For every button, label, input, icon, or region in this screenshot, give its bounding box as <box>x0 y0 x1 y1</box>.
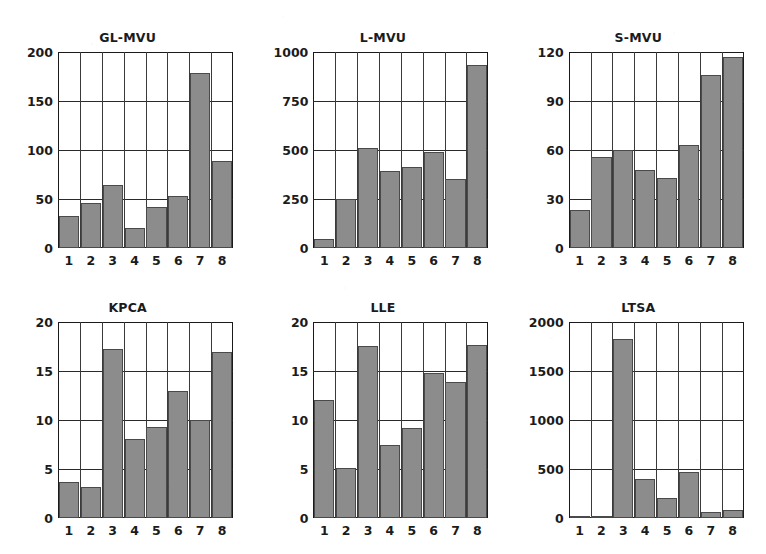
bar <box>103 185 123 248</box>
bar <box>402 428 422 518</box>
plot-area: 05010015020012345678 <box>58 52 233 248</box>
bar-series <box>58 52 233 248</box>
x-axis-tick-label: 8 <box>467 523 487 538</box>
bar <box>380 445 400 519</box>
bar <box>146 427 166 518</box>
bar <box>103 349 123 518</box>
bar <box>146 207 166 248</box>
bar <box>125 228 145 248</box>
y-axis-tick-label: 0 <box>555 241 569 256</box>
bar <box>467 65 487 248</box>
bar-series <box>313 52 488 248</box>
bar-series <box>569 52 744 248</box>
y-axis-tick-label: 500 <box>282 143 313 158</box>
x-axis-tick-label: 3 <box>103 523 123 538</box>
x-axis-tick-labels: 12345678 <box>58 248 233 268</box>
bar <box>424 152 444 248</box>
y-axis-tick-label: 10 <box>291 413 313 428</box>
bar <box>657 498 677 518</box>
x-axis-tick-label: 4 <box>635 523 655 538</box>
x-axis-tick-label: 7 <box>701 523 721 538</box>
x-axis-tick-label: 8 <box>723 523 743 538</box>
y-axis-tick-label: 1000 <box>529 413 569 428</box>
chart-panel-lle: LLE0510152012345678 <box>255 288 510 554</box>
y-axis-tick-label: 0 <box>555 511 569 526</box>
y-axis-tick-label: 60 <box>546 143 568 158</box>
x-axis-tick-label: 8 <box>723 253 743 268</box>
chart-title: S-MVU <box>511 30 766 45</box>
bar <box>701 75 721 248</box>
bar <box>81 203 101 248</box>
x-axis-tick-label: 2 <box>336 523 356 538</box>
bar <box>59 216 79 248</box>
chart-title: LLE <box>255 300 510 315</box>
bar-series <box>313 322 488 518</box>
chart-title: LTSA <box>511 300 766 315</box>
x-axis-tick-label: 1 <box>59 523 79 538</box>
y-axis-tick-label: 150 <box>27 94 58 109</box>
bar <box>657 178 677 248</box>
x-axis-tick-label: 3 <box>613 253 633 268</box>
y-axis-tick-label: 30 <box>546 192 568 207</box>
chart-panel-ltsa: LTSA050010001500200012345678 <box>511 288 766 554</box>
bar <box>445 179 465 248</box>
x-axis-tick-label: 5 <box>146 253 166 268</box>
x-axis-tick-label: 1 <box>59 253 79 268</box>
plot-area: 0250500750100012345678 <box>313 52 488 248</box>
x-axis-tick-label: 6 <box>424 523 444 538</box>
x-axis-tick-label: 4 <box>125 253 145 268</box>
x-axis-tick-labels: 12345678 <box>569 518 744 538</box>
x-axis-tick-label: 1 <box>570 523 590 538</box>
y-axis-tick-label: 15 <box>291 364 313 379</box>
bar <box>445 382 465 518</box>
bar <box>212 161 232 248</box>
plot-area: 050010001500200012345678 <box>569 322 744 518</box>
bar <box>168 391 188 518</box>
y-axis-tick-label: 0 <box>44 511 58 526</box>
x-axis-tick-label: 6 <box>679 523 699 538</box>
x-axis-tick-label: 2 <box>81 523 101 538</box>
x-axis-tick-label: 4 <box>380 523 400 538</box>
bar <box>336 199 356 248</box>
bar-chart-figure: GL-MVU05010015020012345678L-MVU025050075… <box>0 0 766 554</box>
bar <box>635 170 655 248</box>
bar <box>570 210 590 248</box>
chart-panel-gl-mvu: GL-MVU05010015020012345678 <box>0 0 255 288</box>
y-axis-tick-label: 500 <box>538 462 569 477</box>
x-axis-tick-labels: 12345678 <box>313 518 488 538</box>
x-axis-tick-label: 1 <box>570 253 590 268</box>
y-axis-tick-label: 5 <box>44 462 58 477</box>
y-axis-tick-label: 20 <box>291 315 313 330</box>
y-axis-tick-label: 5 <box>300 462 314 477</box>
chart-panel-s-mvu: S-MVU030609012012345678 <box>511 0 766 288</box>
y-axis-tick-label: 120 <box>538 45 569 60</box>
y-axis-tick-label: 0 <box>44 241 58 256</box>
x-axis-tick-label: 5 <box>402 523 422 538</box>
bar <box>212 352 232 518</box>
x-axis-tick-label: 5 <box>146 523 166 538</box>
x-axis-tick-label: 6 <box>168 523 188 538</box>
bar <box>358 346 378 518</box>
bar <box>723 57 743 248</box>
bar <box>190 420 210 518</box>
bar <box>336 468 356 518</box>
plot-area: 0510152012345678 <box>58 322 233 518</box>
x-axis-tick-label: 4 <box>635 253 655 268</box>
x-axis-tick-label: 4 <box>125 523 145 538</box>
x-axis-tick-label: 2 <box>81 253 101 268</box>
y-axis-tick-label: 1000 <box>274 45 314 60</box>
y-axis-tick-label: 10 <box>36 413 58 428</box>
x-axis-tick-label: 3 <box>358 253 378 268</box>
y-axis-tick-label: 100 <box>27 143 58 158</box>
chart-panel-kpca: KPCA0510152012345678 <box>0 288 255 554</box>
y-axis-tick-label: 15 <box>36 364 58 379</box>
x-axis-tick-label: 3 <box>358 523 378 538</box>
bar <box>190 73 210 248</box>
chart-title: GL-MVU <box>0 30 255 45</box>
bar <box>125 439 145 518</box>
bar <box>402 167 422 248</box>
x-axis-tick-label: 6 <box>168 253 188 268</box>
x-axis-tick-label: 7 <box>445 523 465 538</box>
x-axis-tick-label: 5 <box>402 253 422 268</box>
bar <box>723 510 743 518</box>
